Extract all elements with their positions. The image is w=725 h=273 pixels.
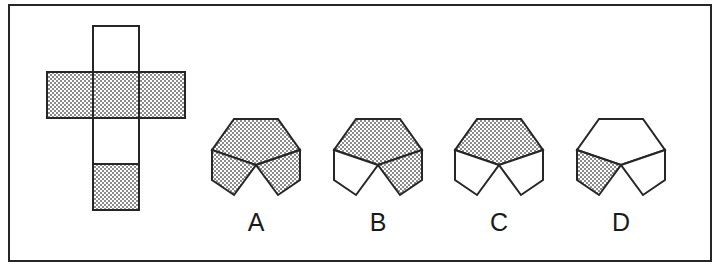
cube-option-diagrams — [212, 119, 665, 195]
option-d-label[interactable]: D — [601, 210, 641, 235]
net-cell-bottom — [93, 164, 139, 210]
net-cell-top — [93, 26, 139, 72]
option-a[interactable] — [212, 119, 300, 195]
option-c[interactable] — [455, 119, 543, 195]
option-d[interactable] — [577, 119, 665, 195]
option-a-label[interactable]: A — [236, 210, 276, 235]
net-cell-left — [47, 72, 93, 118]
figure-page: ABCD — [0, 0, 725, 273]
option-b[interactable] — [334, 119, 422, 195]
net-cell-lower-middle — [93, 118, 139, 164]
cube-net-diagram — [47, 26, 185, 210]
net-cell-center — [93, 72, 139, 118]
net-cell-right — [139, 72, 185, 118]
option-b-label[interactable]: B — [358, 210, 398, 235]
option-c-label[interactable]: C — [479, 210, 519, 235]
